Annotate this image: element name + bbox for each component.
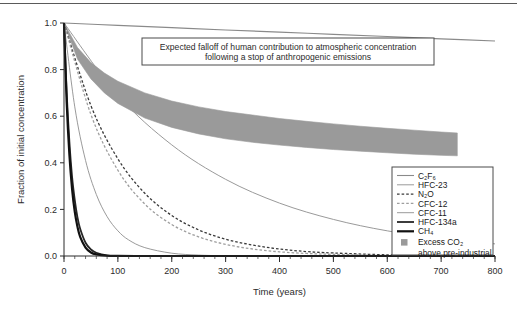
x-tick-label-1: 100	[110, 266, 125, 276]
y-tick-label-2: 0.4	[44, 158, 57, 168]
x-tick-label-2: 200	[164, 266, 179, 276]
legend-label-6: CH₄	[418, 226, 434, 236]
legend-swatch-co2-band	[401, 239, 408, 246]
chart-svg: 0.00.20.40.60.81.00100200300400500600700…	[0, 0, 517, 312]
x-tick-label-8: 800	[487, 266, 502, 276]
chart-figure: 0.00.20.40.60.81.00100200300400500600700…	[0, 0, 517, 312]
annotation-line-2: following a stop of anthropogenic emissi…	[205, 52, 371, 62]
legend-label-co2-1: Excess CO₂	[418, 237, 463, 247]
y-tick-label-1: 0.2	[44, 205, 57, 215]
y-tick-label-0: 0.0	[44, 251, 57, 261]
annotation-line-1: Expected falloff of human contribution t…	[160, 42, 417, 52]
y-tick-label-3: 0.6	[44, 111, 57, 121]
x-tick-label-5: 500	[326, 266, 341, 276]
x-tick-label-7: 700	[434, 266, 449, 276]
y-tick-label-4: 0.8	[44, 65, 57, 75]
x-tick-label-0: 0	[61, 266, 66, 276]
y-tick-label-5: 1.0	[44, 18, 57, 28]
x-axis-title: Time (years)	[253, 286, 306, 297]
x-tick-label-4: 400	[272, 266, 287, 276]
legend-label-co2-2: above pre-industrial	[418, 248, 492, 258]
x-tick-label-3: 300	[218, 266, 233, 276]
x-tick-label-6: 600	[380, 266, 395, 276]
y-axis-title: Fraction of initial concentration	[15, 75, 26, 204]
